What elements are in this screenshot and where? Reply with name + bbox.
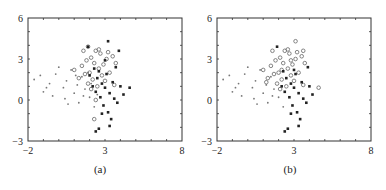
scatter-panel-a: −238630−3 (a) (0, 0, 193, 190)
circle-marker (92, 117, 96, 121)
y-tick-label: 0 (18, 95, 23, 106)
circle-marker (292, 79, 296, 83)
dot-marker (282, 106, 284, 108)
square-marker (296, 111, 299, 114)
circle-marker (295, 50, 299, 54)
dot-marker (55, 73, 57, 75)
square-marker (101, 82, 104, 85)
circle-marker (82, 49, 86, 53)
square-marker (122, 93, 125, 96)
square-marker (116, 101, 119, 104)
circle-marker (269, 64, 273, 68)
dot-marker (84, 88, 86, 90)
dot-marker (235, 87, 237, 89)
circle-marker (297, 71, 301, 75)
circle-marker (106, 50, 110, 54)
x-tick-label: 3 (292, 145, 297, 156)
square-marker (283, 130, 286, 133)
dot-marker (222, 79, 224, 81)
square-marker (300, 81, 303, 84)
x-tick-label: 8 (369, 145, 374, 156)
square-marker (119, 85, 122, 88)
square-marker (88, 74, 91, 77)
dot-marker (259, 69, 261, 71)
square-marker (101, 112, 104, 115)
circle-marker (261, 68, 265, 72)
circle-marker (80, 64, 84, 68)
circle-marker (288, 52, 292, 56)
square-marker (294, 73, 297, 76)
circle-marker (97, 67, 101, 71)
square-marker (283, 91, 286, 94)
circle-marker (274, 59, 278, 63)
square-marker (276, 45, 279, 48)
circle-marker (97, 48, 101, 52)
circle-marker (286, 48, 290, 52)
dot-marker (81, 76, 83, 78)
square-marker (291, 104, 294, 107)
dot-marker (273, 88, 275, 90)
square-marker (114, 66, 117, 69)
square-marker (297, 125, 300, 128)
square-marker (308, 85, 311, 88)
square-marker (108, 125, 111, 128)
circle-marker (77, 76, 81, 80)
dot-marker (90, 83, 92, 85)
square-marker (287, 127, 290, 130)
scatter-points (33, 40, 131, 133)
circle-marker (264, 80, 268, 84)
dot-marker (270, 76, 272, 78)
x-tick-label: 8 (180, 145, 185, 156)
circle-marker (300, 54, 304, 58)
circle-marker (99, 52, 103, 56)
scatter-points (222, 39, 320, 132)
square-marker (282, 70, 285, 73)
y-tick-label: −3 (201, 136, 212, 147)
dot-marker (66, 80, 68, 82)
square-marker (290, 82, 293, 85)
y-tick-label: 3 (18, 54, 23, 65)
y-tick-label: 6 (18, 13, 23, 24)
circle-marker (100, 74, 104, 78)
scatter-plot-b: −238630−3 (189, 0, 382, 190)
circle-marker (96, 85, 100, 89)
circle-marker (303, 61, 307, 65)
circle-marker (278, 56, 282, 60)
circle-marker (294, 39, 298, 43)
circle-marker (102, 63, 106, 67)
square-marker (107, 40, 110, 43)
x-tick-label: −2 (212, 145, 223, 156)
square-marker (113, 97, 116, 100)
square-marker (96, 77, 99, 80)
square-marker (293, 69, 296, 72)
square-marker (311, 93, 314, 96)
square-marker (305, 101, 308, 104)
circle-marker (112, 83, 116, 87)
circle-marker (272, 72, 276, 76)
square-marker (280, 85, 283, 88)
circle-marker (281, 61, 285, 65)
square-marker (104, 86, 107, 89)
circle-marker (291, 63, 295, 67)
y-tick-label: −3 (12, 136, 23, 147)
square-marker (302, 97, 305, 100)
dot-marker (272, 95, 274, 97)
dot-marker (232, 91, 234, 93)
plot-frame (217, 18, 371, 141)
dot-marker (278, 96, 280, 98)
circle-marker (280, 78, 284, 82)
dot-marker (96, 94, 98, 96)
dot-marker (89, 96, 91, 98)
square-marker (288, 96, 291, 99)
circle-marker (111, 54, 115, 58)
square-marker (285, 77, 288, 80)
circle-marker (266, 76, 270, 80)
square-marker (99, 96, 102, 99)
square-marker (94, 91, 97, 94)
dot-marker (46, 87, 48, 89)
circle-marker (289, 74, 293, 78)
dot-marker (238, 83, 240, 85)
dot-marker (241, 95, 243, 97)
square-marker (110, 118, 113, 121)
circle-marker (91, 78, 95, 82)
